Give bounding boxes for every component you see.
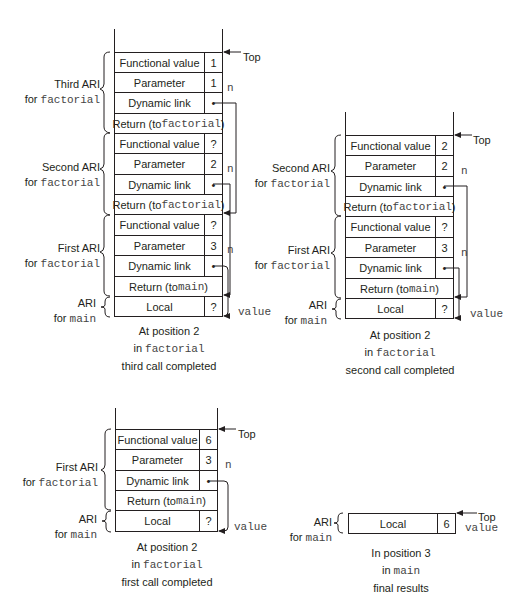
brace-icon: [334, 513, 343, 533]
brace-icon: [101, 297, 110, 317]
brace-icon: [100, 215, 110, 296]
dynamic-link-arrow: [208, 481, 228, 531]
brace-icon: [100, 52, 110, 133]
dynamic-link-arrow: [213, 103, 236, 213]
dynamic-link-arrow: [213, 266, 228, 316]
brace-icon: [331, 216, 341, 298]
brace-icon: [100, 133, 110, 215]
brace-icon: [332, 299, 341, 319]
brace-icon: [101, 429, 111, 510]
dynamic-link-arrow: [444, 186, 467, 297]
connectors-overlay: [0, 0, 526, 597]
dynamic-link-arrow: [444, 268, 459, 318]
brace-icon: [102, 511, 111, 532]
brace-icon: [331, 135, 341, 216]
dynamic-link-arrow: [213, 184, 230, 295]
